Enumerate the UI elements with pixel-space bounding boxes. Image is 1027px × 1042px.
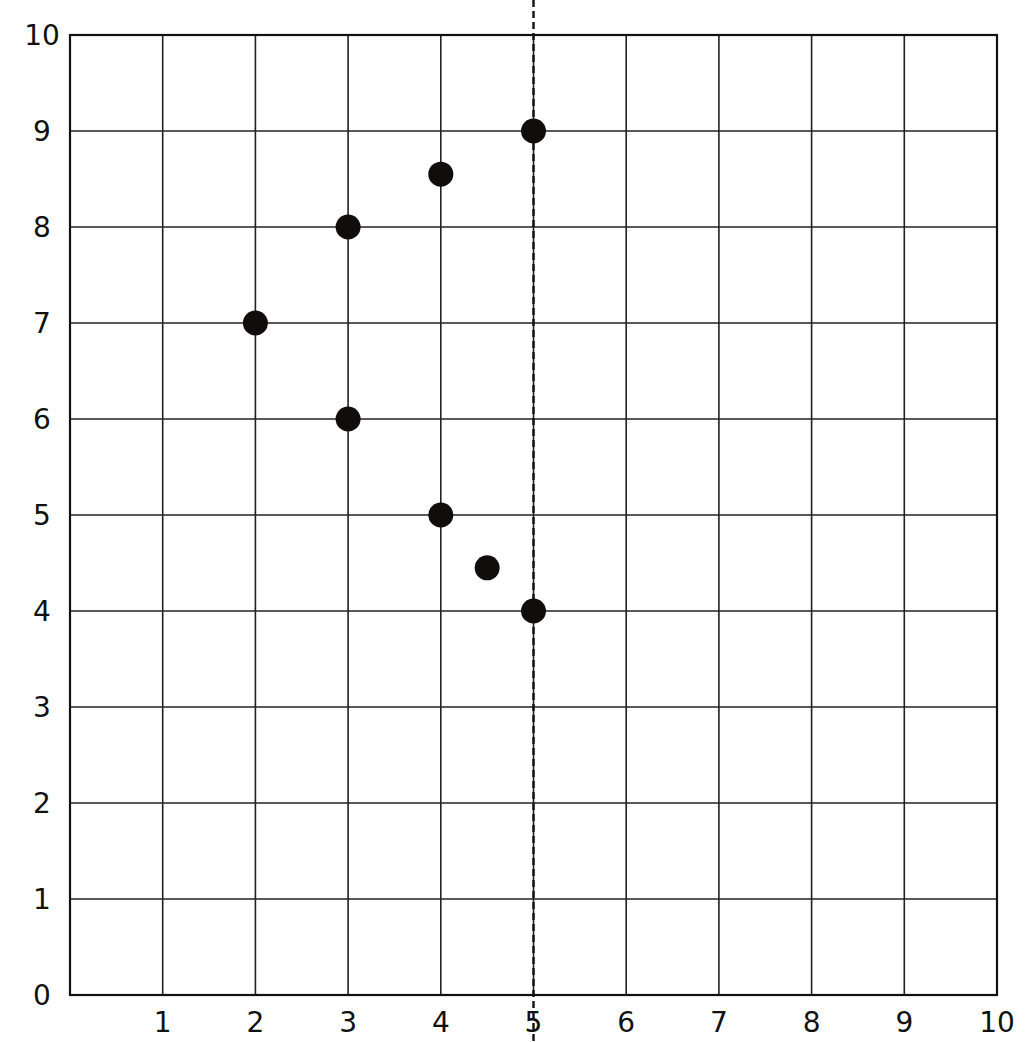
y-tick-label: 0 [33, 979, 51, 1012]
data-point [336, 215, 361, 240]
y-tick-label: 2 [33, 787, 51, 820]
y-tick-label: 3 [33, 691, 51, 724]
y-tick-label: 8 [33, 211, 51, 244]
scatter-chart: 12345678910012345678910 [0, 0, 1027, 1042]
data-point [336, 407, 361, 432]
y-tick-label: 1 [33, 883, 51, 916]
x-tick-label: 2 [246, 1006, 264, 1039]
data-point [521, 119, 546, 144]
x-tick-label: 4 [432, 1006, 450, 1039]
y-tick-label: 7 [33, 307, 51, 340]
tick-labels: 12345678910012345678910 [24, 19, 1015, 1039]
x-tick-label: 1 [154, 1006, 172, 1039]
y-tick-label: 5 [33, 499, 51, 532]
data-point [475, 555, 500, 580]
data-point [428, 503, 453, 528]
x-tick-label: 8 [803, 1006, 821, 1039]
x-tick-label: 9 [895, 1006, 913, 1039]
x-tick-label: 5 [525, 1006, 543, 1039]
grid [70, 0, 997, 1042]
y-tick-label: 10 [24, 19, 60, 52]
x-tick-label: 7 [710, 1006, 728, 1039]
x-tick-label: 10 [979, 1006, 1015, 1039]
x-tick-label: 6 [617, 1006, 635, 1039]
data-point [521, 599, 546, 624]
data-points [243, 119, 546, 624]
x-tick-label: 3 [339, 1006, 357, 1039]
data-point [428, 162, 453, 187]
y-tick-label: 6 [33, 403, 51, 436]
data-point [243, 311, 268, 336]
y-tick-label: 4 [33, 595, 51, 628]
y-tick-label: 9 [33, 115, 51, 148]
